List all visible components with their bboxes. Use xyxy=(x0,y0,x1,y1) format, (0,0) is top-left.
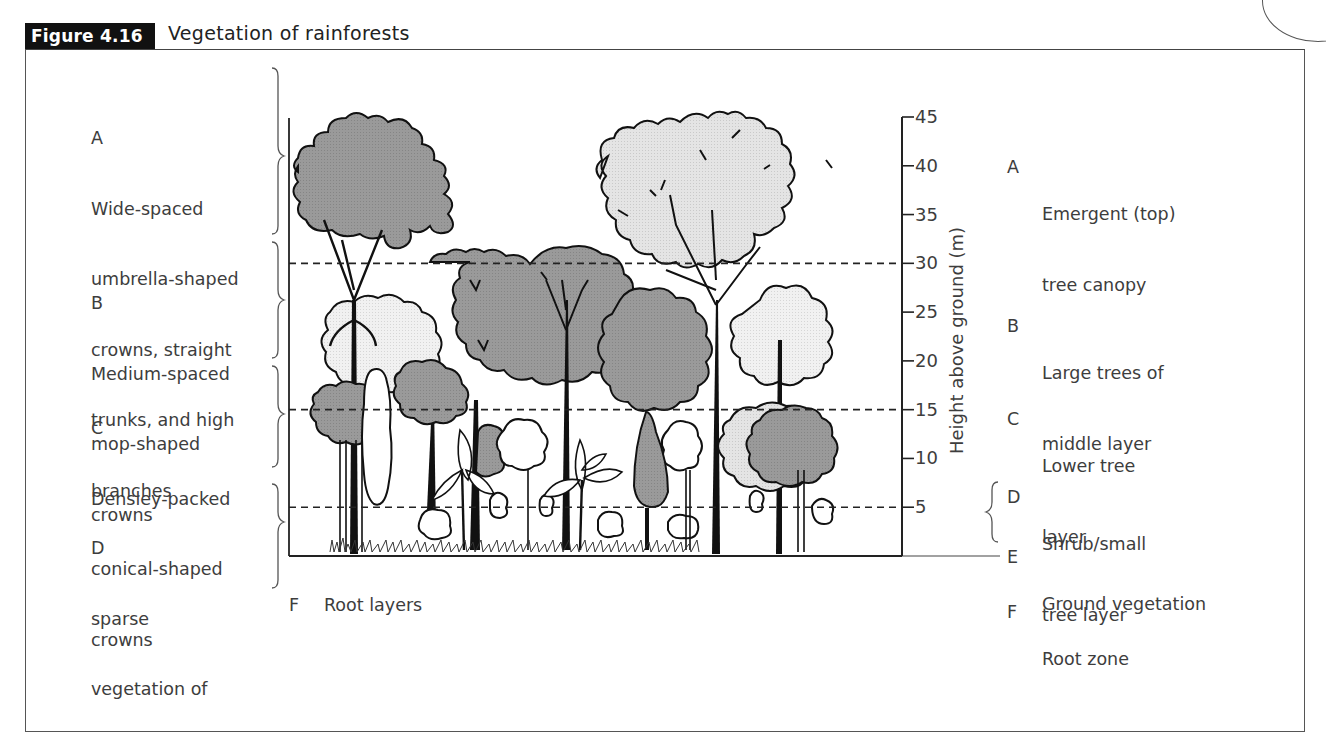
tree-white-2 xyxy=(662,421,702,471)
tree-white-tall xyxy=(362,369,392,505)
tree-white-1 xyxy=(497,419,548,470)
ground-grass xyxy=(330,538,699,552)
legend-b-line: Large trees of xyxy=(1042,362,1164,386)
legend-f-text: Root zone xyxy=(1042,601,1129,695)
legend-a-text: Emergent (top) tree canopy xyxy=(1042,156,1175,321)
legend-b-letter: B xyxy=(1007,316,1019,336)
legend-a-line: Emergent (top) xyxy=(1042,203,1175,227)
axis-tick-label: 20 xyxy=(915,352,938,370)
shrub-4 xyxy=(490,493,507,518)
conical-tree xyxy=(634,412,668,507)
brace-c xyxy=(272,366,284,467)
legend-c-line: Lower tree xyxy=(1042,455,1135,479)
brace-d xyxy=(272,484,284,588)
axis-tick-label: 45 xyxy=(915,108,938,126)
shrub-1 xyxy=(419,509,451,539)
legend-f-letter: F xyxy=(1007,602,1017,622)
legend-f-line: Root zone xyxy=(1042,648,1129,672)
legend-a-line: tree canopy xyxy=(1042,274,1175,298)
shrub-7 xyxy=(812,499,833,524)
legend-e-letter: E xyxy=(1007,547,1018,567)
axis-tick-label: 10 xyxy=(915,449,938,467)
axis-title: Height above ground (m) xyxy=(946,227,967,454)
axis-tick-label: 30 xyxy=(915,254,938,272)
axis-tick-label: 35 xyxy=(915,206,938,224)
shrub-6 xyxy=(750,491,764,512)
crown-mid-2 xyxy=(598,288,712,411)
crown-emergent-left xyxy=(293,113,453,248)
brace-group-left xyxy=(272,68,284,588)
crown-emergent-right xyxy=(596,112,794,268)
shrub-2 xyxy=(598,512,623,537)
crown-lower-center xyxy=(394,360,469,424)
brace-a xyxy=(272,68,284,234)
legend-d-letter: D xyxy=(1007,487,1020,507)
brace-right-d xyxy=(986,482,998,542)
axis-tick-label: 5 xyxy=(915,498,926,516)
palm-2-frond xyxy=(544,440,622,497)
trunk-emergent-right xyxy=(712,300,720,554)
axis-tick-label: 25 xyxy=(915,303,938,321)
brace-b xyxy=(272,242,284,358)
shrub-5 xyxy=(540,495,554,516)
axis-tick-label: 40 xyxy=(915,157,938,175)
shrub-3 xyxy=(668,515,698,538)
legend-c-letter: C xyxy=(1007,409,1019,429)
axis-ticks xyxy=(902,117,914,507)
axis-tick-label: 15 xyxy=(915,401,938,419)
legend-a-letter: A xyxy=(1007,157,1019,177)
